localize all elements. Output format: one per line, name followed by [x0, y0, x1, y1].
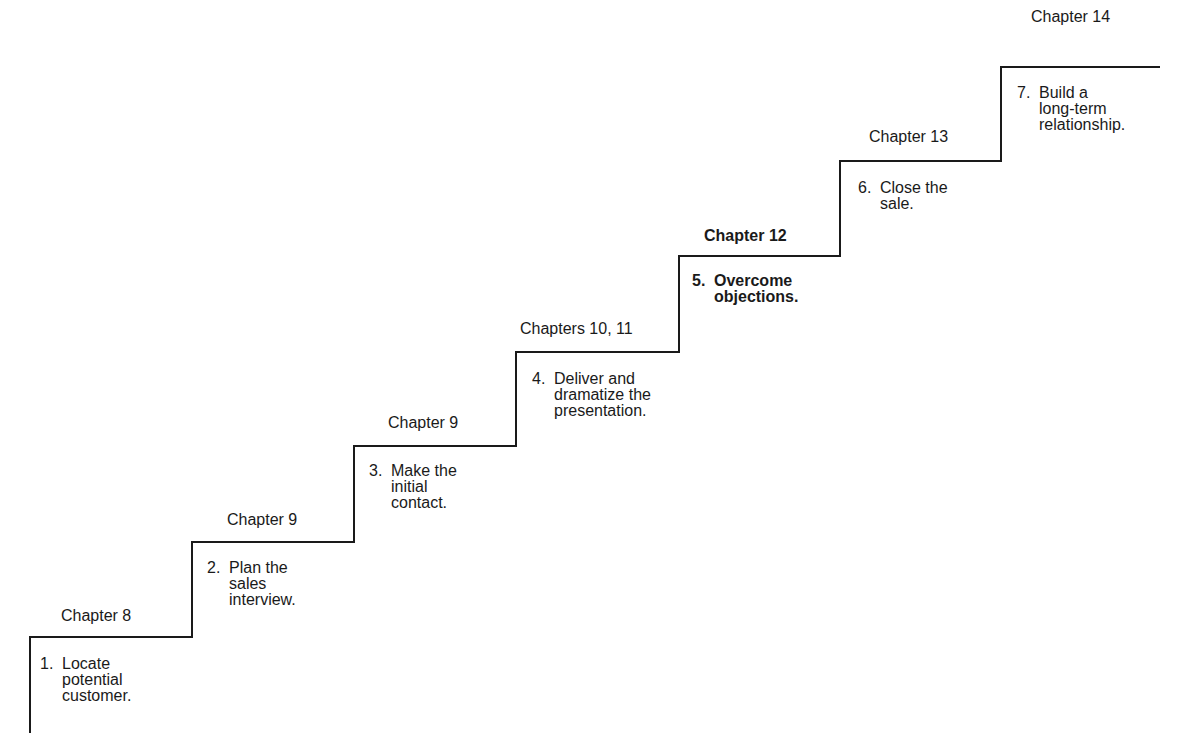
step-number: 7.: [1017, 85, 1039, 133]
chapter-label-6: Chapter 13: [869, 128, 948, 146]
step-text: Locate potential customer.: [62, 656, 131, 704]
chapter-label-4: Chapters 10, 11: [520, 320, 633, 338]
step-number: 4.: [532, 371, 554, 419]
step-6: 6. Close the sale.: [858, 180, 948, 212]
step-number: 3.: [369, 463, 391, 511]
chapter-label-5: Chapter 12: [704, 227, 787, 245]
step-number: 1.: [40, 656, 62, 704]
step-text: Close the sale.: [880, 180, 948, 212]
step-7: 7. Build a long-term relationship.: [1017, 85, 1125, 133]
step-number: 2.: [207, 560, 229, 608]
step-text: Build a long-term relationship.: [1039, 85, 1125, 133]
chapter-label-1: Chapter 8: [61, 607, 131, 625]
chapter-label-7: Chapter 14: [1031, 8, 1110, 26]
step-text: Make the initial contact.: [391, 463, 457, 511]
step-text: Deliver and dramatize the presentation.: [554, 371, 651, 419]
step-text: Plan the sales interview.: [229, 560, 296, 608]
step-text: Overcome objections.: [714, 273, 798, 305]
step-2: 2. Plan the sales interview.: [207, 560, 296, 608]
chapter-label-2: Chapter 9: [227, 511, 297, 529]
step-number: 5.: [692, 273, 714, 305]
step-4: 4. Deliver and dramatize the presentatio…: [532, 371, 651, 419]
step-number: 6.: [858, 180, 880, 212]
chapter-label-3: Chapter 9: [388, 414, 458, 432]
step-5: 5. Overcome objections.: [692, 273, 798, 305]
step-3: 3. Make the initial contact.: [369, 463, 457, 511]
step-1: 1. Locate potential customer.: [40, 656, 131, 704]
